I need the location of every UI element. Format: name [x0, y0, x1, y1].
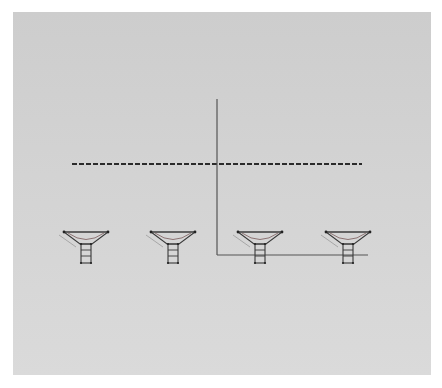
diagram-stage — [0, 0, 442, 388]
antenna-dish — [321, 231, 371, 265]
antenna-dish — [233, 231, 283, 265]
interferometer-diagram — [0, 0, 442, 388]
antenna-dish — [146, 231, 196, 265]
antenna-dish — [59, 231, 109, 265]
antenna-array — [59, 231, 371, 265]
